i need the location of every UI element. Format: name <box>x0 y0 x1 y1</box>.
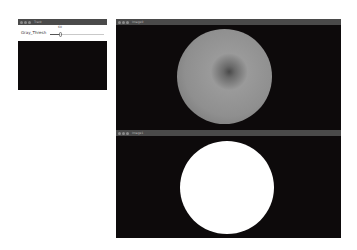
minimize-icon[interactable] <box>122 21 125 24</box>
close-icon[interactable] <box>20 21 23 24</box>
window-controls <box>118 132 129 135</box>
image0-window: Image0 <box>116 19 341 130</box>
maximize-icon[interactable] <box>28 21 31 24</box>
trackbar-value: 60 <box>58 25 62 29</box>
trackbar-label: Gray_Thresh <box>21 30 46 35</box>
minimize-icon[interactable] <box>122 132 125 135</box>
trackbar-panel: Gray_Thresh 60 <box>18 25 107 41</box>
window-controls <box>118 21 129 24</box>
image1-window: Image1 <box>116 130 341 238</box>
threshold-mask <box>180 141 274 234</box>
trackbar-window: Track Gray_Thresh 60 <box>18 19 107 90</box>
image1-canvas <box>116 136 341 238</box>
close-icon[interactable] <box>118 21 121 24</box>
window-controls <box>20 21 31 24</box>
maximize-icon[interactable] <box>126 21 129 24</box>
image0-canvas <box>116 25 341 130</box>
apple-image <box>177 29 272 124</box>
close-icon[interactable] <box>118 132 121 135</box>
trackbar-knob[interactable] <box>59 32 62 37</box>
minimize-icon[interactable] <box>24 21 27 24</box>
maximize-icon[interactable] <box>126 132 129 135</box>
